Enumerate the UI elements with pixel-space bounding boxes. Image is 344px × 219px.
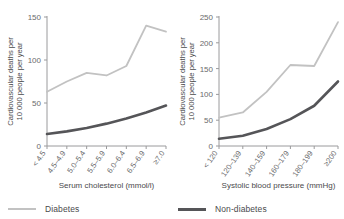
y-axis-title-line1: Cardiovascular deaths per xyxy=(6,37,15,126)
x-tick-label: 120–139 xyxy=(219,149,243,178)
y-axis-title-line1: Cardiovascular deaths per xyxy=(178,37,187,126)
x-tick-label: < 4.5 xyxy=(30,149,47,168)
x-tick-label: 5.5–5.9 xyxy=(85,149,107,175)
x-tick-label: 160–179 xyxy=(267,149,291,178)
y-tick-label: 150 xyxy=(28,13,42,22)
x-tick-label: 6.5–6.9 xyxy=(125,149,147,175)
x-tick-label: < 120 xyxy=(201,149,219,170)
plot-area-1: 050100150200250< 120120–139140–159160–17… xyxy=(178,13,339,190)
line-chart-systolic-blood-pressure: 050100150200250< 120120–139140–159160–17… xyxy=(172,0,344,198)
x-tick-label: ≥7.0 xyxy=(151,149,167,166)
x-axis-title: Serum cholesterol (mmol/l) xyxy=(59,181,155,190)
figure-cardiovascular-deaths: 050100150< 4.54.5–4.95.0–5.45.5–5.96.0–6… xyxy=(0,0,344,219)
x-tick-label: 180–199 xyxy=(291,149,315,178)
y-axis-title-line2: 10 000 people per year xyxy=(187,42,196,121)
chart-panels: 050100150< 4.54.5–4.95.0–5.45.5–5.96.0–6… xyxy=(0,0,344,198)
x-tick-label: 6.0–6.4 xyxy=(105,149,127,175)
legend-label-diabetes: Diabetes xyxy=(45,204,79,214)
legend-item-diabetes: Diabetes xyxy=(8,202,79,216)
chart-panel-systolic-blood-pressure: 050100150200250< 120120–139140–159160–17… xyxy=(172,0,344,198)
chart-panel-serum-cholesterol: 050100150< 4.54.5–4.95.0–5.45.5–5.96.0–6… xyxy=(0,0,172,198)
plot-area-0: 050100150< 4.54.5–4.95.0–5.45.5–5.96.0–6… xyxy=(6,13,167,190)
chart-legend: Diabetes Non-diabetes xyxy=(0,198,344,219)
x-tick-label: ≥200 xyxy=(322,149,339,168)
y-tick-label: 250 xyxy=(200,13,214,22)
line-chart-serum-cholesterol: 050100150< 4.54.5–4.95.0–5.45.5–5.96.0–6… xyxy=(0,0,172,198)
series-line-diabetes xyxy=(47,26,166,92)
legend-label-non-diabetes: Non-diabetes xyxy=(215,204,267,214)
x-tick-label: 140–159 xyxy=(243,149,267,178)
y-axis-title-line2: 10 000 people per year xyxy=(15,42,24,121)
y-tick-label: 50 xyxy=(204,116,213,125)
series-line-non-diabetes xyxy=(47,106,166,134)
x-tick-label: 5.0–5.4 xyxy=(65,149,87,175)
legend-line-icon-diabetes xyxy=(8,208,36,210)
x-tick-label: 4.5–4.9 xyxy=(46,149,68,175)
series-line-non-diabetes xyxy=(219,82,338,139)
y-tick-label: 200 xyxy=(200,39,214,48)
y-tick-label: 50 xyxy=(32,99,41,108)
legend-line-icon-non-diabetes xyxy=(178,208,206,211)
series-line-diabetes xyxy=(219,22,338,117)
y-tick-label: 100 xyxy=(28,56,42,65)
x-axis-title: Systolic blood pressure (mmHg) xyxy=(222,181,336,190)
y-tick-label: 100 xyxy=(200,90,214,99)
legend-item-non-diabetes: Non-diabetes xyxy=(178,202,267,216)
y-tick-label: 150 xyxy=(200,65,214,74)
